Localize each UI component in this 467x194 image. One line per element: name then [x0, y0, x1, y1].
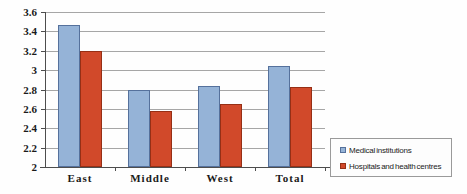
gridline — [45, 31, 325, 32]
y-tick-label: 2.4 — [0, 122, 37, 134]
legend: Medical institutions Hospitals and healt… — [330, 138, 452, 177]
bar-west-series1 — [198, 86, 220, 167]
y-axis-line — [45, 12, 46, 167]
x-category-label: Middle — [115, 172, 185, 184]
x-category-label: East — [45, 172, 115, 184]
bar-east-series2 — [80, 51, 102, 167]
y-tick-label: 3.4 — [0, 25, 37, 37]
x-category-label: West — [185, 172, 255, 184]
legend-label: Medical institutions — [349, 146, 412, 155]
bar-middle-series2 — [150, 111, 172, 167]
legend-entry: Hospitals and health centres — [340, 161, 441, 171]
y-tick-label: 3.2 — [0, 45, 37, 57]
x-axis-tick — [115, 167, 116, 171]
y-tick-label: 2 — [0, 161, 37, 173]
y-tick-label: 2.2 — [0, 142, 37, 154]
bar-chart: Medical institutions Hospitals and healt… — [0, 0, 467, 194]
y-tick-label: 2.6 — [0, 103, 37, 115]
gridline — [45, 12, 325, 13]
bar-total-series1 — [268, 66, 290, 167]
bar-west-series2 — [220, 104, 242, 167]
y-tick-label: 3.6 — [0, 6, 37, 18]
y-tick-label: 2.8 — [0, 84, 37, 96]
legend-label: Hospitals and health centres — [349, 162, 441, 171]
x-axis-tick — [325, 167, 326, 171]
bar-middle-series1 — [128, 90, 150, 167]
bar-east-series1 — [58, 25, 80, 167]
x-axis-tick — [255, 167, 256, 171]
legend-entry: Medical institutions — [340, 145, 412, 155]
legend-marker — [340, 147, 346, 153]
legend-marker — [340, 163, 346, 169]
y-tick-label: 3 — [0, 64, 37, 76]
x-axis-tick — [185, 167, 186, 171]
bar-total-series2 — [290, 87, 312, 167]
x-category-label: Total — [255, 172, 325, 184]
